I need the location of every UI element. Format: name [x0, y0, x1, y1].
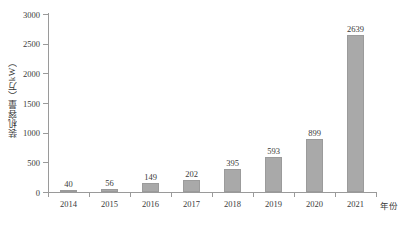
x-axis-tick-mark [130, 193, 131, 197]
x-axis-category-label: 2020 [306, 199, 323, 209]
x-tick-layer [48, 193, 377, 197]
x-axis-category-label: 2019 [265, 199, 282, 209]
bar-chart: 装机容量（万kW） 050010001500200025003000 40561… [0, 0, 402, 226]
bar: 899 [306, 139, 323, 192]
bar-value-label: 395 [226, 158, 239, 168]
y-axis-tick-label: 1000 [23, 128, 40, 138]
bar-value-label: 202 [185, 169, 198, 179]
x-axis-title: 年份 [380, 199, 398, 211]
y-axis-tick-label: 2000 [23, 69, 40, 79]
y-axis-title: 装机容量（万kW） [2, 0, 20, 196]
x-axis-tick-mark [335, 193, 336, 197]
x-axis-tick-mark [212, 193, 213, 197]
bar-value-label: 899 [308, 128, 321, 138]
x-axis-category-label: 2021 [347, 199, 364, 209]
x-axis-tick-mark [253, 193, 254, 197]
y-axis-title-text: 装机容量（万kW） [5, 58, 18, 138]
bar: 149 [142, 183, 159, 192]
bar: 2639 [347, 35, 364, 192]
y-axis-tick-label: 0 [36, 188, 40, 198]
x-axis-category-label: 2018 [224, 199, 241, 209]
x-axis-labels: 20142015201620172018201920202021 [48, 199, 376, 213]
bar: 56 [101, 189, 118, 192]
x-axis-tick-mark [171, 193, 172, 197]
x-axis-tick-mark [376, 193, 377, 197]
bar-value-label: 40 [64, 179, 73, 189]
bars-layer: 40561492023955938992639 [48, 14, 376, 192]
bar-value-label: 149 [144, 172, 157, 182]
x-axis-category-label: 2016 [142, 199, 159, 209]
bar: 593 [265, 157, 282, 192]
x-axis-category-label: 2015 [101, 199, 118, 209]
bar-value-label: 593 [267, 146, 280, 156]
bar-value-label: 56 [105, 178, 114, 188]
x-axis-category-label: 2014 [60, 199, 77, 209]
y-axis-tick-label: 500 [27, 158, 40, 168]
x-axis-category-label: 2017 [183, 199, 200, 209]
y-axis-tick-label: 1500 [23, 99, 40, 109]
x-axis-tick-mark [48, 193, 49, 197]
bar: 395 [224, 169, 241, 192]
x-axis-tick-mark [89, 193, 90, 197]
bar: 202 [183, 180, 200, 192]
x-axis-tick-mark [294, 193, 295, 197]
bar-value-label: 2639 [347, 24, 364, 34]
y-axis-tick-label: 2500 [23, 39, 40, 49]
y-axis-tick-label: 3000 [23, 10, 40, 20]
bar: 40 [60, 190, 77, 192]
